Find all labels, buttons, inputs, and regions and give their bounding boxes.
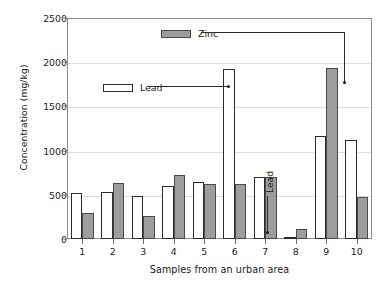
x-axis-tick-mark [143,239,144,244]
gridline [68,107,371,108]
x-axis-tick-mark [357,239,358,244]
x-axis-tick-mark [296,239,297,244]
y-axis-tick-label: 1500 [7,101,67,112]
x-axis-tick-label: 3 [128,246,158,257]
legend-item-zinc: Zinc [161,28,218,39]
x-axis-tick-mark [174,239,175,244]
y-axis-tick-mark [62,62,67,63]
x-axis-tick-label: 1 [67,246,97,257]
x-axis-tick-label: 5 [189,246,219,257]
x-axis-tick-mark [265,239,266,244]
x-axis-title: Samples from an urban area [67,264,372,275]
y-axis-tick-label: 500 [7,189,67,200]
legend-item-lead: Lead [103,82,163,93]
legend-swatch-zinc-icon [161,30,191,38]
lead-annotation-bar8-line [267,196,268,232]
bar-chart: Concentration (mg/kg) 050010001500200025… [0,0,390,289]
x-axis-tick-mark [235,239,236,244]
zinc-callout-line-horizontal [201,32,344,33]
x-axis-tick-label: 2 [98,246,128,257]
x-axis-tick-label: 9 [311,246,341,257]
y-axis-tick-label: 1000 [7,145,67,156]
y-axis-tick-mark [62,194,67,195]
gridline [68,196,371,197]
y-axis-tick-mark [62,239,67,240]
legend-label-zinc: Zinc [198,28,218,39]
y-axis-tick-label: 0 [7,234,67,245]
x-axis-tick-mark [113,239,114,244]
x-axis-tick-label: 7 [250,246,280,257]
y-axis-tick-label: 2500 [7,13,67,24]
lead-annotation-bar8-label: Lead [264,171,275,193]
lead-callout-endpoint [227,85,230,88]
plot-area [67,18,372,239]
gridline [68,152,371,153]
x-axis-tick-label: 8 [281,246,311,257]
y-axis-tick-label: 2000 [7,57,67,68]
zinc-callout-line-vertical [344,32,345,82]
zinc-callout-endpoint [343,81,346,84]
y-axis-tick-mark [62,106,67,107]
y-axis-tick-mark [62,150,67,151]
y-axis-tick-mark [62,18,67,19]
legend-swatch-lead-icon [103,84,133,92]
x-axis-tick-mark [326,239,327,244]
lead-annotation-bar8-endpoint [266,231,269,234]
x-axis-tick-label: 4 [159,246,189,257]
x-axis-tick-mark [82,239,83,244]
lead-callout-line-horizontal [148,86,228,87]
x-axis-tick-label: 10 [342,246,372,257]
x-axis-tick-mark [204,239,205,244]
gridline [68,63,371,64]
legend-label-lead: Lead [140,82,163,93]
x-axis-tick-label: 6 [220,246,250,257]
